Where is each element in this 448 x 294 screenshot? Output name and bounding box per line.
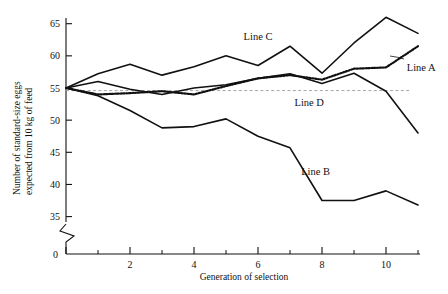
chart-figure: 35404550556065 246810 Line CLine ALine D…: [0, 0, 448, 294]
series-label: Line D: [294, 97, 324, 108]
x-tick-label: 2: [128, 259, 133, 270]
series-line-b: [66, 88, 418, 205]
line-chart-canvas: 35404550556065 246810 Line CLine ALine D…: [0, 0, 448, 294]
y-tick-label: 50: [50, 115, 60, 126]
y-axis-ticks: [66, 24, 72, 217]
series-line-d: [66, 73, 418, 133]
y-tick-label: 35: [50, 211, 60, 222]
series-label: Line B: [301, 166, 330, 177]
x-tick-label: 8: [320, 259, 325, 270]
x-axis-tick-labels: 246810: [128, 259, 392, 270]
y-tick-label: 65: [50, 18, 60, 29]
y-axis-tick-labels: 35404550556065: [50, 18, 60, 222]
x-tick-label: 4: [192, 259, 197, 270]
series-label: Line A: [407, 62, 436, 73]
y-axis-break-icon: [60, 224, 74, 254]
series-line-c: [66, 17, 418, 88]
x-axis-title: Generation of selection: [200, 272, 289, 282]
x-axis-ticks: [66, 247, 418, 254]
x-tick-label: 6: [256, 259, 261, 270]
x-tick-label: 10: [381, 259, 391, 270]
y-axis-title-line1: Number of standard-size eggs: [12, 81, 22, 195]
y-tick-label: 40: [50, 179, 60, 190]
y-tick-label: 45: [50, 147, 60, 158]
y-axis-title-line2: expected from 10 kg of feed: [24, 87, 34, 195]
y-tick-label: 55: [50, 83, 60, 94]
series-label: Line C: [244, 31, 273, 42]
y-origin-label: 0: [53, 249, 58, 260]
data-series-layer: [66, 17, 418, 205]
y-tick-label: 60: [50, 50, 60, 61]
